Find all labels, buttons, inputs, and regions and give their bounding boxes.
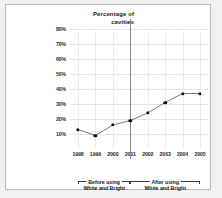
y-axis-tick-label: 20% <box>56 116 66 122</box>
x-axis-tick-label: 1999 <box>90 151 101 157</box>
data-series-line <box>70 29 208 149</box>
series-polyline <box>78 94 200 136</box>
plot-area: 10%20%30%40%50%60%70%80% 199819992000200… <box>70 29 208 149</box>
y-axis-tick-label: 10% <box>56 131 66 137</box>
x-axis-tick-label: 2002 <box>142 151 153 157</box>
y-axis-tick-label: 60% <box>56 56 66 62</box>
chart-sheet: Percentage of cavities 10%20%30%40%50%60… <box>5 4 211 190</box>
after-bracket-caption: After using <box>150 179 180 185</box>
chart-title-line-1: Percentage of <box>20 11 134 19</box>
x-axis-tick-label: 2004 <box>177 151 188 157</box>
before-bracket-subcaption: White and Bright <box>83 185 125 192</box>
x-axis-tick-label: 2000 <box>107 151 118 157</box>
chart-title-line-2: cavities <box>20 19 134 27</box>
y-axis-tick-label: 70% <box>56 41 66 47</box>
after-bracket-subcaption: White and Bright <box>144 185 186 192</box>
page-background: Percentage of cavities 10%20%30%40%50%60… <box>0 0 222 198</box>
y-axis-tick-label: 80% <box>56 26 66 32</box>
before-bracket-caption: Before using <box>87 179 122 185</box>
chart-title: Percentage of cavities <box>20 11 134 26</box>
y-axis-tick-label: 50% <box>56 71 66 77</box>
x-axis-tick-label: 1998 <box>72 151 83 157</box>
x-axis-tick-label: 2005 <box>194 151 205 157</box>
y-axis-tick-label: 40% <box>56 86 66 92</box>
y-axis-tick-label: 30% <box>56 101 66 107</box>
x-axis-tick-label: 2003 <box>160 151 171 157</box>
